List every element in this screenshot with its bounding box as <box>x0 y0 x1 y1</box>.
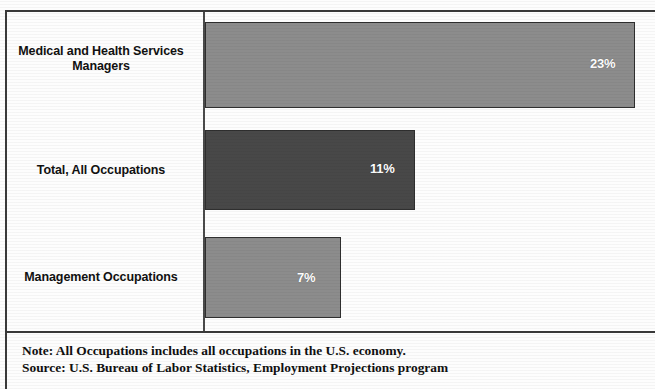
bar-row: Total, All Occupations 11% <box>7 120 655 230</box>
footer-note: Note: All Occupations includes all occup… <box>22 342 642 359</box>
bar-row: Medical and Health Services Managers 23% <box>7 12 655 120</box>
footer-source: Source: U.S. Bureau of Labor Statistics,… <box>22 359 642 376</box>
bar-value-label: 7% <box>297 270 315 285</box>
category-label: Medical and Health Services Managers <box>7 44 195 73</box>
frame-bottom-divider <box>5 331 655 333</box>
bar-value-label: 11% <box>370 161 395 176</box>
bar-value-label: 23% <box>590 56 615 71</box>
bar-management-occupations <box>205 237 341 318</box>
bar-medical-and-health-services-managers <box>205 22 635 108</box>
bar-row: Management Occupations 7% <box>7 230 655 331</box>
category-label: Management Occupations <box>7 270 195 285</box>
category-label: Total, All Occupations <box>7 163 195 178</box>
plot-area: Medical and Health Services Managers 23%… <box>7 12 655 331</box>
chart-footer: Note: All Occupations includes all occup… <box>22 342 642 376</box>
chart-figure: Medical and Health Services Managers 23%… <box>0 0 655 389</box>
